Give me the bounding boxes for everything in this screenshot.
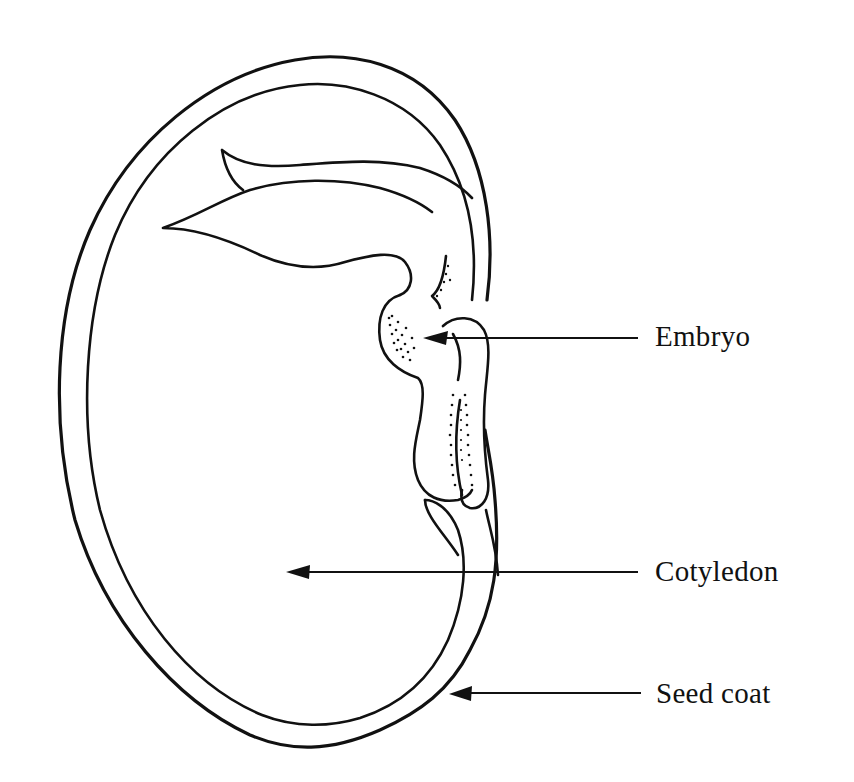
radicle-stipple — [449, 394, 474, 487]
plumule-lower-leaf — [163, 181, 432, 295]
embryo-radicle — [443, 318, 488, 508]
plumule-upper-leaf — [222, 150, 472, 198]
embryo-stipple — [388, 315, 416, 362]
seed-coat-leader — [449, 686, 641, 701]
label-embryo: Embryo — [655, 322, 750, 351]
seed-coat-inner — [87, 84, 474, 725]
embryo-leader — [423, 331, 638, 345]
seed-coat-outer — [59, 57, 496, 747]
label-seed-coat: Seed coat — [656, 679, 771, 708]
radicle-divider — [453, 334, 462, 495]
label-cotyledon: Cotyledon — [655, 557, 779, 586]
seed-diagram — [0, 0, 854, 782]
cotyledon-leader — [286, 565, 638, 579]
